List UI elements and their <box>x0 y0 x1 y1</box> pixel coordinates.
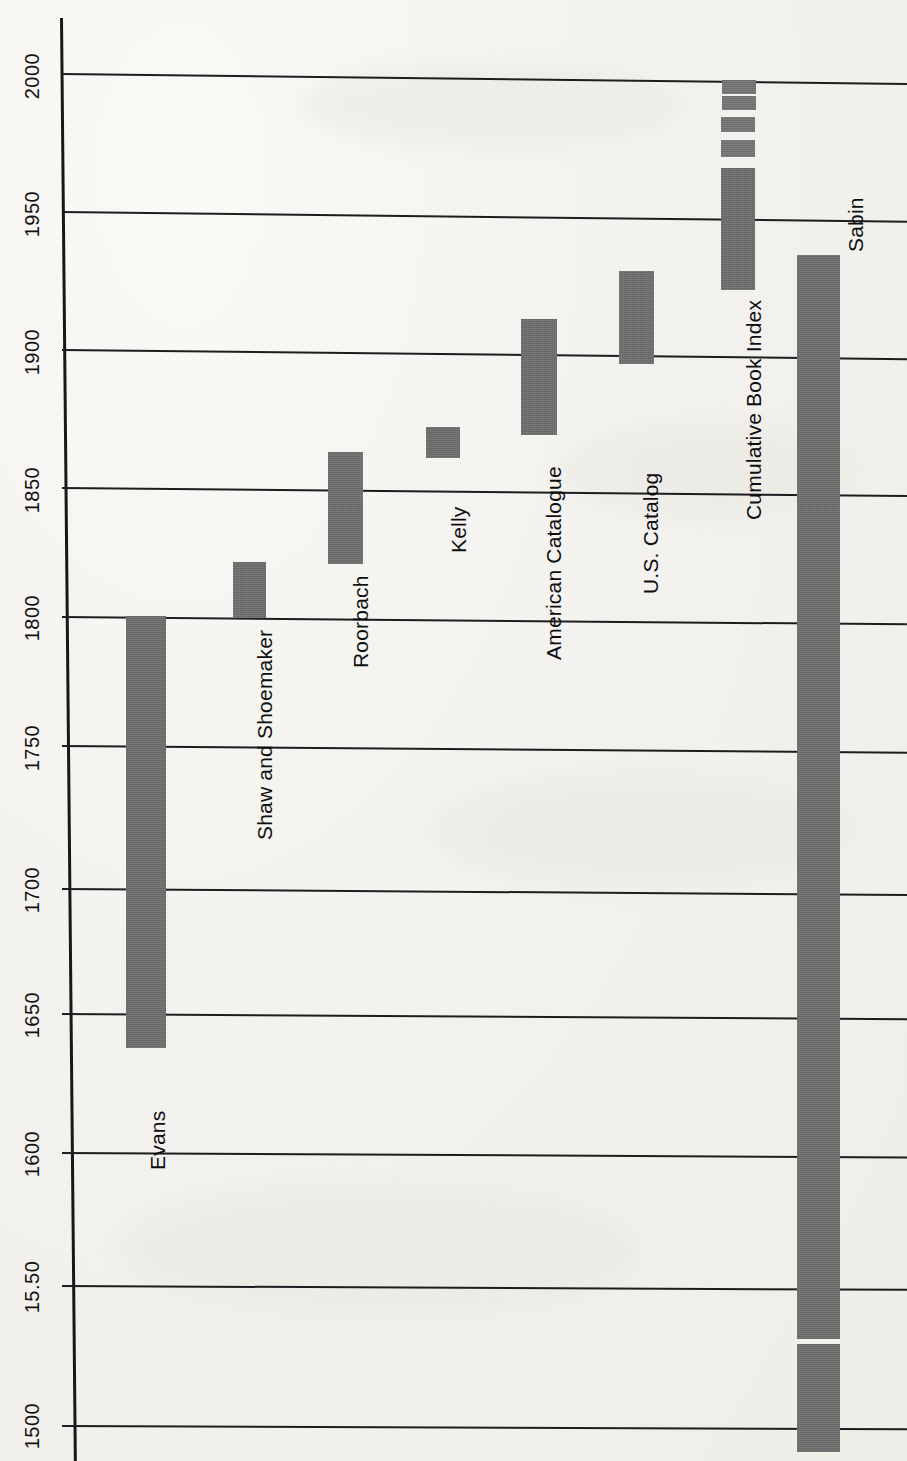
gridline-1700 <box>62 888 907 896</box>
tick-label-1900: 1900 <box>21 329 44 376</box>
bar-label-us-catalog: U.S. Catalog <box>639 473 663 594</box>
gridline-1950 <box>62 211 907 223</box>
tick-label-1650: 1650 <box>21 992 44 1039</box>
bar-label-roorbach: Roorbach <box>349 575 373 668</box>
bar-label-shaw-and-shoemaker: Shaw and Shoemaker <box>253 630 277 840</box>
tick-label-1850: 1850 <box>21 467 44 514</box>
gridline-1500 <box>62 1425 907 1430</box>
scan-smudge <box>300 60 680 150</box>
bar-segment-cbi-4 <box>722 80 756 94</box>
tick-label-1500: 1500 <box>21 1403 44 1450</box>
tick-label-1750: 1750 <box>21 725 44 772</box>
gridline-1750 <box>62 745 907 754</box>
bar-label-cumulative-book-index: Cumulative Book Index <box>742 300 766 520</box>
bar-kelly <box>426 427 460 458</box>
gridline-1800 <box>62 616 907 625</box>
gridline-1900 <box>62 349 907 360</box>
bar-evans <box>126 616 166 1048</box>
bar-segment-cbi-1 <box>721 140 755 157</box>
bar-american-catalogue <box>521 319 557 435</box>
scan-smudge <box>120 1180 640 1320</box>
bar-segment-cbi-3 <box>722 96 756 110</box>
gridline-1600 <box>62 1152 907 1158</box>
bar-us-catalog <box>619 271 654 364</box>
bar-label-evans: Evans <box>146 1111 170 1170</box>
tick-label-2000: 2000 <box>21 53 44 100</box>
bar-segment-cbi-2 <box>721 117 755 132</box>
bar-label-kelly: Kelly <box>447 506 471 553</box>
bar-roorbach <box>328 452 363 564</box>
scan-smudge <box>430 770 850 890</box>
gridline-2000 <box>62 73 907 85</box>
bar-cumulative-book-index <box>721 168 755 290</box>
value-axis-line <box>60 18 77 1461</box>
gridline-1850 <box>62 487 907 497</box>
tick-label-1950: 1950 <box>21 191 44 238</box>
bibliography-coverage-chart: 2000 1950 1900 1850 1800 1750 1700 1650 … <box>0 0 907 1461</box>
tick-label-1700: 1700 <box>21 867 44 914</box>
bar-shaw-and-shoemaker <box>233 562 266 618</box>
tick-label-1600: 1600 <box>21 1131 44 1178</box>
bar-sabin-scan-dropout <box>797 1339 840 1344</box>
bar-sabin <box>797 255 840 1452</box>
gridline-1550 <box>62 1285 907 1291</box>
gridline-1650 <box>62 1013 907 1020</box>
bar-label-sabin: Sabin <box>844 197 868 252</box>
bar-label-american-catalogue: American Catalogue <box>542 466 566 660</box>
tick-label-1800: 1800 <box>21 595 44 642</box>
tick-label-1550: 15.50 <box>21 1261 44 1314</box>
